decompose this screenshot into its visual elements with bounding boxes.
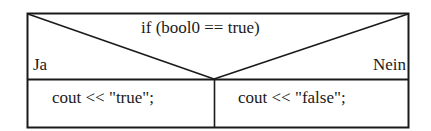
no-branch-label: Nein	[373, 55, 406, 75]
condition-label: if (bool0 == true)	[141, 18, 260, 38]
no-branch-statement: cout << "false";	[238, 88, 346, 108]
yes-branch-statement: cout << "true";	[52, 88, 154, 108]
yes-branch-label: Ja	[33, 55, 47, 75]
